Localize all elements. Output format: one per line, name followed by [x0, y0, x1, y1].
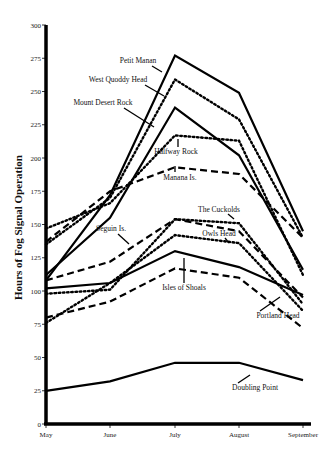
label-owls-head: Owls Head — [202, 229, 236, 238]
y-tick-label: 250 — [31, 88, 42, 96]
label-seguin-is: Seguin Is. — [96, 224, 126, 233]
y-tick-label: 200 — [31, 155, 42, 163]
axes: 0255075100125150175200225250275300MayJun… — [31, 22, 319, 440]
pointer-seguin-is — [118, 234, 129, 244]
series-line-mount-desert-rock — [46, 108, 303, 276]
label-petit-manan: Petit Manan — [120, 56, 157, 65]
x-tick-label: September — [288, 431, 319, 439]
pointer-portland-head — [260, 297, 280, 311]
x-tick-label: June — [104, 431, 117, 439]
pointer-petit-manan — [152, 66, 162, 72]
y-tick-label: 275 — [31, 55, 42, 63]
y-axis-label: Hours of Fog Signal Operation — [12, 155, 24, 300]
y-tick-label: 125 — [31, 254, 42, 262]
label-portland-head: Portland Head — [256, 311, 299, 320]
y-tick-label: 0 — [38, 421, 42, 429]
x-tick-label: August — [229, 431, 249, 439]
label-the-cuckolds: The Cuckolds — [198, 205, 240, 214]
label-mount-desert-rock: Mount Desert Rock — [73, 98, 132, 107]
y-tick-label: 50 — [34, 354, 42, 362]
y-tick-label: 25 — [34, 387, 42, 395]
label-west-quoddy-head: West Quoddy Head — [89, 75, 148, 84]
y-tick-label: 175 — [31, 188, 42, 196]
label-manana-is: Manana Is. — [163, 173, 196, 182]
y-tick-label: 150 — [31, 221, 42, 229]
label-isles-of-shoals: Isles of Shoals — [162, 283, 206, 292]
pointer-the-cuckolds — [228, 214, 234, 219]
x-tick-label: July — [169, 431, 181, 439]
pointer-doubling-point — [238, 375, 250, 383]
label-halfway-rock: Halfway Rock — [154, 147, 198, 156]
series-labels: Petit MananWest Quoddy HeadMount Desert … — [73, 56, 299, 392]
y-tick-label: 100 — [31, 288, 42, 296]
fog-signal-chart: 0255075100125150175200225250275300MayJun… — [0, 0, 333, 455]
x-tick-label: May — [40, 431, 53, 439]
y-tick-label: 300 — [31, 22, 42, 30]
y-tick-label: 75 — [34, 321, 42, 329]
label-doubling-point: Doubling Point — [232, 383, 279, 392]
y-tick-label: 225 — [31, 121, 42, 129]
